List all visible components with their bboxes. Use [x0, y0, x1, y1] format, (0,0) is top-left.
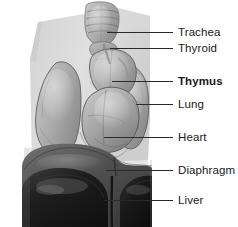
label-lung: Lung	[178, 97, 204, 111]
trachea-organ	[85, 2, 119, 45]
label-diaphragm: Diaphragm	[178, 163, 235, 177]
leader-line-thyroid	[110, 48, 173, 49]
label-thymus: Thymus	[178, 74, 223, 88]
leader-line-heart	[104, 137, 173, 138]
leader-line-liver	[104, 200, 173, 201]
label-liver: Liver	[178, 193, 203, 207]
label-liver-text: Liver	[178, 193, 203, 207]
leader-line-lung	[136, 104, 173, 105]
anatomy-figure: Trachea Thyroid Thymus Lung Heart Diaphr…	[0, 0, 238, 227]
label-thymus-text: Thymus	[178, 74, 223, 88]
liver-falciform-groove	[112, 176, 114, 227]
label-trachea: Trachea	[178, 25, 220, 39]
label-heart: Heart	[178, 130, 207, 144]
label-diaphragm-text: Diaphragm	[178, 163, 235, 177]
leader-line-trachea	[107, 32, 173, 33]
label-lung-text: Lung	[178, 97, 204, 111]
label-heart-text: Heart	[178, 130, 207, 144]
label-thyroid: Thyroid	[178, 41, 217, 55]
label-trachea-text: Trachea	[178, 25, 220, 39]
leader-line-diaphragm	[106, 170, 173, 171]
label-thyroid-text: Thyroid	[178, 41, 217, 55]
leader-line-thymus	[112, 81, 173, 82]
